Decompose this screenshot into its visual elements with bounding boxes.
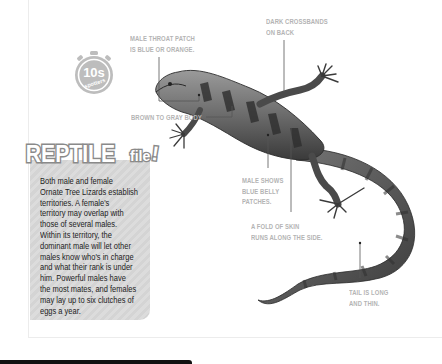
body-line: dominant male will let other bbox=[40, 241, 160, 252]
annotation-body-color: BROWN TO GRAY BODY bbox=[131, 113, 202, 124]
annotation-line: MALE SHOWS bbox=[242, 176, 283, 187]
body-line: Ornate Tree Lizards establish bbox=[40, 187, 160, 198]
annotation-line: MALE THROAT PATCH bbox=[130, 34, 195, 45]
annotation-line: BLUE BELLY bbox=[242, 187, 283, 198]
body-line: eggs a year. bbox=[40, 306, 160, 317]
body-line: may lay up to six clutches of bbox=[40, 295, 160, 306]
annotation-line: BROWN TO GRAY BODY bbox=[131, 113, 202, 124]
title-main: REPTILE bbox=[26, 141, 115, 167]
title-sub: file bbox=[130, 148, 150, 164]
annotation-line: ON BACK bbox=[266, 28, 328, 39]
annotation-throat-patch: MALE THROAT PATCH IS BLUE OR ORANGE. bbox=[130, 34, 195, 55]
annotation-line: PATCHES. bbox=[242, 197, 283, 208]
annotation-line: AND THIN. bbox=[349, 299, 388, 310]
title-mark: ! bbox=[150, 142, 160, 165]
annotation-tail: TAIL IS LONG AND THIN. bbox=[349, 288, 388, 309]
annotation-line: A FOLD OF SKIN bbox=[251, 222, 323, 233]
reptile-file-title: REPTILE file ! bbox=[24, 138, 160, 168]
reptile-file-body: Both male and female Ornate Tree Lizards… bbox=[40, 176, 160, 316]
annotation-crossbands: DARK CROSSBANDS ON BACK bbox=[266, 17, 328, 38]
page: 10s spotters bbox=[0, 0, 442, 364]
annotation-line: DARK CROSSBANDS bbox=[266, 17, 328, 28]
annotation-skin-fold: A FOLD OF SKIN RUNS ALONG THE SIDE. bbox=[251, 222, 323, 243]
annotation-line: RUNS ALONG THE SIDE. bbox=[251, 233, 323, 244]
annotation-line: TAIL IS LONG bbox=[349, 288, 388, 299]
annotation-line: IS BLUE OR ORANGE. bbox=[130, 45, 195, 56]
annotation-belly-patches: MALE SHOWS BLUE BELLY PATCHES. bbox=[242, 176, 283, 208]
